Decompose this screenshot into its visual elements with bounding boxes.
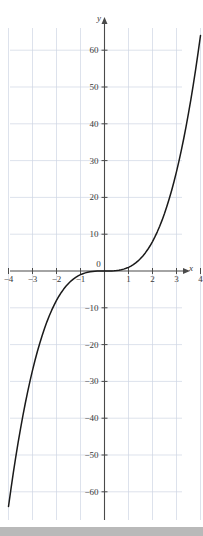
y-tick-label: 30 [90, 156, 99, 165]
y-axis-label: y [97, 14, 101, 23]
plot-canvas [0, 0, 203, 536]
x-tick-label: 3 [174, 275, 179, 284]
x-tick-label: 0 [96, 260, 101, 269]
x-tick-label: 1 [126, 275, 131, 284]
y-tick-label: 40 [90, 119, 99, 128]
y-tick-label: −60 [84, 487, 98, 496]
y-tick-label: −50 [84, 451, 98, 460]
y-tick-label: −30 [84, 377, 98, 386]
x-tick-label: −1 [76, 275, 86, 284]
x-tick-label: −3 [28, 275, 38, 284]
x-tick-label: −4 [4, 275, 14, 284]
y-tick-label: −20 [84, 340, 98, 349]
y-tick-label: 50 [90, 83, 99, 92]
graph-figure: −60−50−40−30−20−10102030405060 −4−3−2−10… [0, 0, 203, 536]
x-tick-label: 2 [150, 275, 155, 284]
x-tick-label: 4 [198, 275, 203, 284]
y-tick-label: 10 [90, 230, 99, 239]
bottom-gray-band [0, 527, 203, 536]
y-tick-label: 60 [90, 46, 99, 55]
y-tick-label: −40 [84, 414, 98, 423]
y-tick-label: 20 [90, 193, 99, 202]
x-tick-label: −2 [52, 275, 62, 284]
y-tick-label: −10 [84, 303, 98, 312]
y-axis-arrow [102, 17, 108, 24]
x-axis-label: x [189, 264, 193, 273]
